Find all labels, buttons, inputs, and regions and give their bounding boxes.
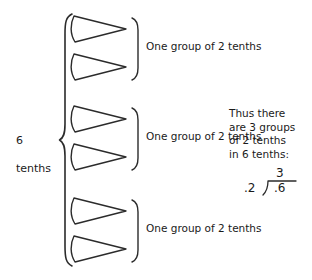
explanation-line: Thus there: [229, 107, 309, 121]
total-quantity-label: 6 tenths: [16, 120, 62, 190]
group-block: One group of 2 tenths: [68, 196, 304, 268]
explanation-line: in 6 tenths:: [229, 148, 309, 162]
division-dividend: .6: [274, 181, 285, 195]
group-block: One group of 2 tenths: [68, 14, 304, 86]
long-division: 3 .2 .6: [236, 166, 308, 200]
triangle-right-icon: [68, 234, 130, 264]
division-divisor: .2: [244, 181, 255, 195]
group-bracket: [130, 198, 142, 264]
group-bracket: [130, 106, 142, 172]
group-label: One group of 2 tenths: [146, 222, 262, 235]
group-bracket: [130, 16, 142, 82]
explanation-text: Thus there are 3 groups of 2 tenths in 6…: [229, 107, 309, 161]
triangle-right-icon: [68, 196, 130, 226]
triangle-right-icon: [68, 142, 130, 172]
explanation-line: of 2 tenths: [229, 134, 309, 148]
triangle-right-icon: [68, 14, 130, 44]
worksheet-diagram: 6 tenths One group of 2 tenths: [0, 0, 312, 280]
total-quantity-unit: tenths: [16, 162, 62, 176]
triangle-right-icon: [68, 52, 130, 82]
triangle-right-icon: [68, 104, 130, 134]
total-quantity-number: 6: [16, 134, 62, 148]
explanation-line: are 3 groups: [229, 121, 309, 135]
group-label: One group of 2 tenths: [146, 40, 262, 53]
